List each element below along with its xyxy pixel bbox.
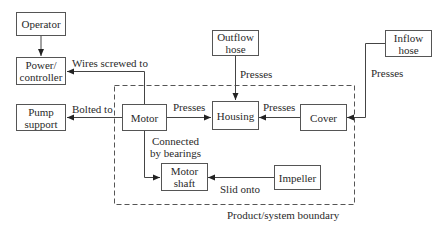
node-label: Motor xyxy=(131,112,159,124)
node-inflow-hose: Inflow hose xyxy=(385,30,432,57)
node-label: Power/ controller xyxy=(20,59,63,83)
node-operator: Operator xyxy=(16,12,66,36)
edge-label-motor-presses-housing: Presses xyxy=(173,101,205,113)
node-pump-support: Pump support xyxy=(16,104,66,131)
node-label: Cover xyxy=(310,112,337,124)
node-label: Motor shaft xyxy=(171,165,199,189)
node-impeller: Impeller xyxy=(274,165,321,190)
edge-label-cover-presses: Presses xyxy=(263,101,295,113)
node-label: Inflow hose xyxy=(394,32,423,56)
node-label: Pump support xyxy=(25,106,58,130)
edge-label-outflow-presses: Presses xyxy=(240,68,272,80)
node-label: Operator xyxy=(21,18,60,30)
node-motor-shaft: Motor shaft xyxy=(161,163,208,191)
edge-label-connected-by-bearings: Connected by bearings xyxy=(150,135,201,159)
edge-label-slid-onto: Slid onto xyxy=(220,183,260,195)
node-label: Housing xyxy=(217,110,254,122)
node-label: Impeller xyxy=(279,172,316,184)
node-cover: Cover xyxy=(300,104,347,131)
node-outflow-hose: Outflow hose xyxy=(212,30,259,56)
edge-label-wires-screwed-to: Wires screwed to xyxy=(72,57,148,69)
node-housing: Housing xyxy=(212,101,259,130)
node-motor: Motor xyxy=(122,104,167,131)
edge-label-inflow-presses: Presses xyxy=(371,67,403,79)
node-power-controller: Power/ controller xyxy=(16,57,66,85)
node-label: Outflow hose xyxy=(217,31,254,55)
edge-label-bolted-to: Bolted to xyxy=(72,103,113,115)
boundary-label: Product/system boundary xyxy=(227,209,339,221)
